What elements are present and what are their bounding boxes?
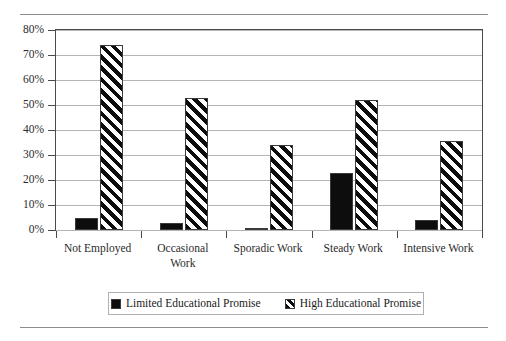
x-axis-category-label: OccasionalWork: [140, 241, 225, 271]
bar-group: [397, 30, 482, 230]
bar: [355, 100, 378, 230]
y-axis-tick-mark: [48, 80, 55, 81]
chart-legend: Limited Educational Promise High Educati…: [108, 292, 424, 315]
x-axis-labels: Not EmployedOccasionalWorkSporadic WorkS…: [55, 241, 483, 281]
bar: [330, 173, 353, 231]
x-axis-tick-mark: [397, 231, 398, 238]
bar: [270, 145, 293, 230]
x-axis-tick-mark: [312, 231, 313, 238]
bar: [100, 45, 123, 230]
bar: [415, 220, 438, 230]
chart-figure: 0%10%20%30%40%50%60%70%80% Not EmployedO…: [0, 0, 506, 341]
bars-area: [56, 30, 482, 230]
y-axis-tick-label: 60%: [23, 74, 44, 86]
x-axis-tick-mark: [226, 231, 227, 238]
y-axis-tick-mark: [48, 205, 55, 206]
legend-label-limited: Limited Educational Promise: [126, 298, 261, 310]
x-axis-tick-mark: [56, 231, 57, 238]
x-axis-category-label: Not Employed: [55, 241, 140, 256]
top-divider-rule: [20, 14, 488, 15]
x-axis-category-label: Intensive Work: [396, 241, 481, 256]
legend-swatch-high-icon: [285, 299, 295, 309]
x-axis-ticks: [55, 231, 483, 238]
x-axis-category-label: Steady Work: [311, 241, 396, 256]
bar-group: [141, 30, 226, 230]
bar: [160, 223, 183, 231]
bar-group: [312, 30, 397, 230]
bar-group: [56, 30, 141, 230]
bar: [185, 98, 208, 231]
y-axis-tick-label: 70%: [23, 49, 44, 61]
x-axis-category-label: Sporadic Work: [225, 241, 310, 256]
y-axis-tick-mark: [48, 230, 55, 231]
y-axis-tick-mark: [48, 155, 55, 156]
legend-entry-limited: Limited Educational Promise: [111, 298, 261, 310]
legend-label-high: High Educational Promise: [300, 298, 421, 310]
y-axis-tick-label: 50%: [23, 99, 44, 111]
x-axis-tick-mark: [482, 231, 483, 238]
y-axis-tick-mark: [48, 30, 55, 31]
y-axis-tick-label: 10%: [23, 199, 44, 211]
bottom-divider-rule: [20, 327, 488, 328]
bar: [440, 141, 463, 230]
y-axis-tick-label: 80%: [23, 24, 44, 36]
y-axis-tick-label: 0%: [29, 224, 44, 236]
y-axis-tick-label: 20%: [23, 174, 44, 186]
y-axis-tick-mark: [48, 105, 55, 106]
bar: [75, 218, 98, 231]
y-axis-tick-mark: [48, 130, 55, 131]
y-axis-tick-label: 40%: [23, 124, 44, 136]
y-axis: 0%10%20%30%40%50%60%70%80%: [0, 29, 55, 231]
legend-entry-high: High Educational Promise: [285, 298, 421, 310]
y-axis-tick-label: 30%: [23, 149, 44, 161]
legend-swatch-limited-icon: [111, 299, 121, 309]
bar-group: [226, 30, 311, 230]
y-axis-tick-mark: [48, 55, 55, 56]
x-axis-tick-mark: [141, 231, 142, 238]
y-axis-tick-mark: [48, 180, 55, 181]
bar: [245, 228, 268, 231]
